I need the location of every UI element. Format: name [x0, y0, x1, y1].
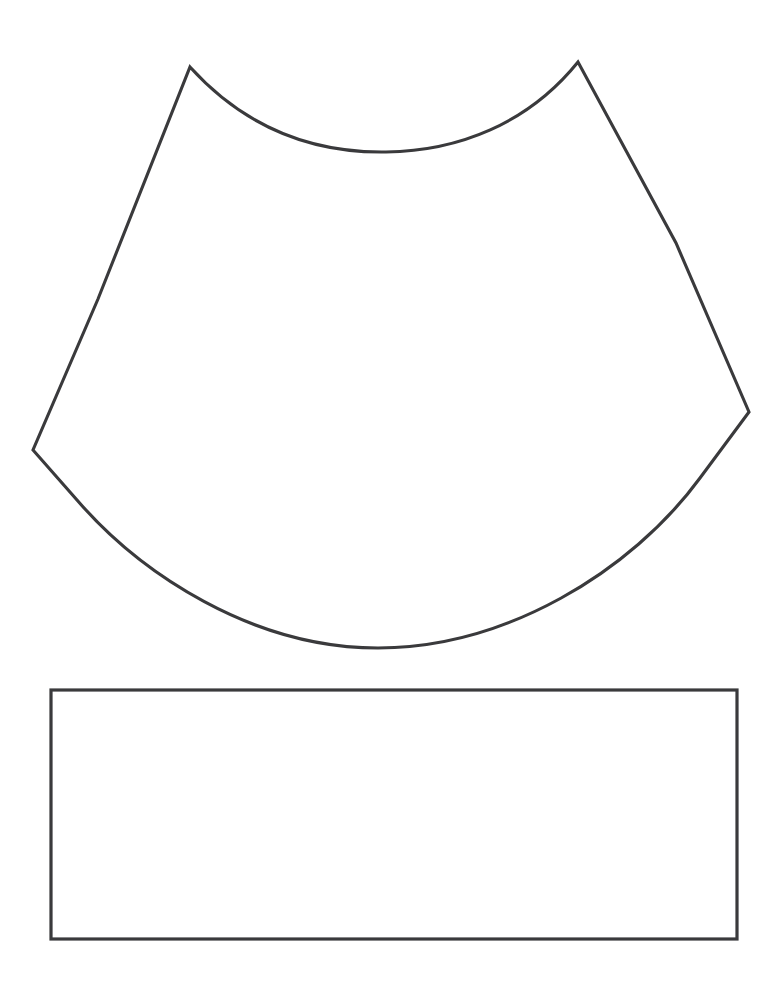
page-background [0, 0, 765, 993]
page-canvas [0, 0, 765, 993]
pattern-drawing-svg [0, 0, 765, 993]
